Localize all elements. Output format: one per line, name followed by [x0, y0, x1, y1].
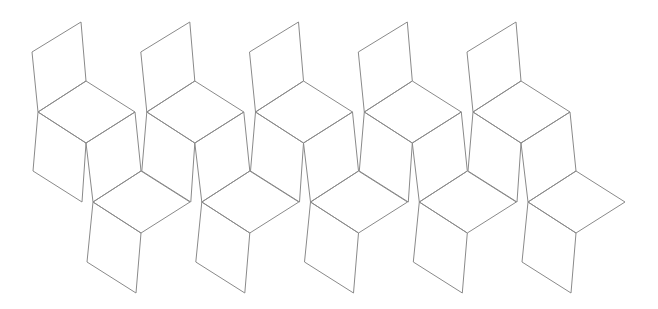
lower-seat-face	[528, 171, 625, 233]
net-unit-3	[250, 22, 408, 293]
net-unit-1	[32, 22, 190, 293]
seat-face	[473, 81, 570, 143]
seat-face	[364, 81, 461, 143]
lower-seat-face	[311, 171, 408, 233]
lower-front-face	[522, 202, 576, 293]
lower-seat-face	[93, 171, 190, 233]
lower-front-face	[413, 202, 467, 293]
units-group	[32, 22, 625, 293]
net-unit-2	[141, 22, 299, 293]
lower-seat-face	[419, 171, 516, 233]
lower-seat-face	[202, 171, 299, 233]
lower-front-face	[305, 202, 359, 293]
net-unit-5	[467, 22, 625, 293]
lower-front-face	[87, 202, 141, 293]
seat-face	[38, 81, 135, 143]
lower-front-face	[196, 202, 250, 293]
seat-face	[147, 81, 244, 143]
rhombus-net-diagram	[0, 0, 658, 309]
net-drawing	[0, 0, 658, 309]
net-unit-4	[358, 22, 516, 293]
seat-face	[256, 81, 353, 143]
front-left-face	[33, 112, 86, 202]
